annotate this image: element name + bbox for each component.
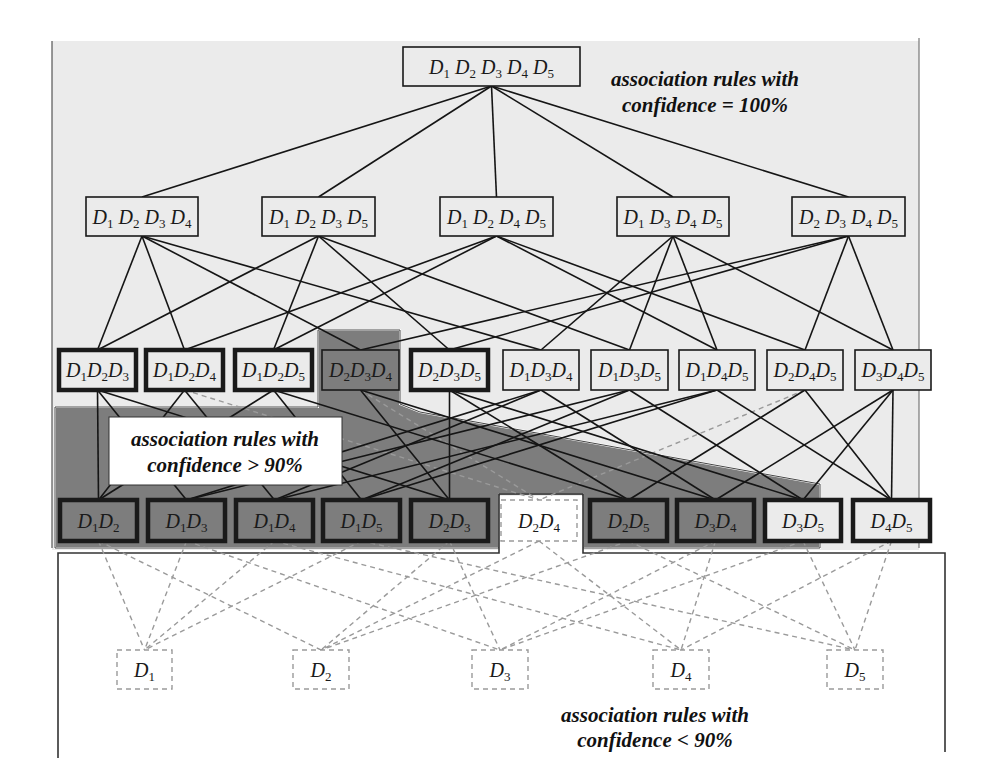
node-label: D1 D2 D3 D5	[268, 206, 368, 231]
node-label: D1 D2 D4 D5	[446, 206, 546, 231]
itemset-node-d3d4: D3D4	[677, 500, 754, 541]
itemset-node-d1d3d4: D1D3D4	[503, 350, 579, 390]
itemset-node-d1d2d3d5: D1 D2 D3 D5	[262, 197, 375, 236]
node-label: D1D2D5	[241, 359, 305, 384]
itemset-node-d1d3: D1D3	[148, 500, 225, 541]
itemset-node-d1d3d5: D1D3D5	[591, 350, 668, 390]
node-label: D1D3D5	[597, 359, 661, 384]
itemset-node-d3: D3	[472, 650, 528, 689]
lattice-svg: D1 D2 D3 D4 D5D1 D2 D3 D4D1 D2 D3 D5D1 D…	[0, 0, 987, 784]
node-label: D1D3D4	[509, 359, 573, 384]
itemset-node-d1d3d4d5: D1 D3 D4 D5	[617, 197, 729, 236]
node-label: D1 D3 D4 D5	[623, 206, 723, 231]
itemset-node-d1d2d3: D1D2D3	[59, 350, 136, 390]
annotation-lt90-line2: confidence < 90%	[577, 728, 732, 752]
itemset-node-d1d5: D1D5	[323, 500, 400, 541]
annotation-100-line2: confidence = 100%	[622, 93, 788, 117]
itemset-node-d1d2d4: D1D2D4	[146, 350, 223, 390]
node-label: D1D4D5	[685, 359, 749, 384]
itemset-node-d5: D5	[827, 650, 883, 689]
itemset-node-d2d3d4d5: D2 D3 D4 D5	[792, 197, 905, 236]
node-label: D2D4D5	[773, 359, 837, 384]
itemset-node-d1d2d5: D1D2D5	[235, 350, 312, 390]
annotation-gt90-line2: confidence > 90%	[147, 453, 302, 477]
annotation-lt90-line1: association rules with	[561, 703, 749, 727]
itemset-node-d2: D2	[293, 650, 349, 689]
node-label: D2D3D4	[328, 359, 392, 384]
itemset-node-d1d2d4d5: D1 D2 D4 D5	[440, 197, 553, 236]
annotation-confidence-gt-90: association rules with confidence > 90%	[109, 417, 342, 485]
lattice-diagram: D1 D2 D3 D4 D5D1 D2 D3 D4D1 D2 D3 D5D1 D…	[0, 0, 987, 784]
itemset-node-d1d2: D1D2	[60, 500, 137, 541]
itemset-node-d2d3: D2D3	[411, 500, 488, 541]
annotation-confidence-lt-90: association rules with confidence < 90%	[561, 703, 749, 752]
itemset-node-d3d5: D3D5	[765, 500, 841, 541]
itemset-node-d2d4d5: D2D4D5	[767, 350, 843, 390]
itemset-node-d3d4d5: D3D4D5	[855, 350, 931, 390]
lattice-edge	[98, 390, 99, 500]
node-label: D1 D2 D3 D4	[92, 206, 192, 231]
annotation-100-line1: association rules with	[611, 67, 799, 91]
itemset-node-d1d2d3d4d5: D1 D2 D3 D4 D5	[403, 47, 580, 86]
node-label: D3D4D5	[861, 359, 925, 384]
itemset-node-d1d4d5: D1D4D5	[679, 350, 755, 390]
itemset-node-d2d3d4: D2D3D4	[322, 350, 399, 390]
itemset-node-d1: D1	[117, 650, 172, 689]
node-label: D2D3D5	[417, 359, 481, 384]
node-label: D1D2D3	[65, 359, 129, 384]
itemset-node-d2d4: D2D4	[501, 500, 577, 541]
node-label: D2 D3 D4 D5	[798, 206, 898, 231]
itemset-node-d4: D4	[653, 650, 709, 689]
annotation-gt90-line1: association rules with	[131, 427, 319, 451]
node-label: D1D2D4	[152, 359, 216, 384]
itemset-node-d2d3d5: D2D3D5	[411, 350, 488, 390]
itemset-node-d2d5: D2D5	[590, 500, 667, 541]
itemset-node-d4d5: D4D5	[853, 500, 930, 541]
itemset-node-d1d4: D1D4	[236, 500, 313, 541]
itemset-node-d1d2d3d4: D1 D2 D3 D4	[86, 197, 198, 236]
